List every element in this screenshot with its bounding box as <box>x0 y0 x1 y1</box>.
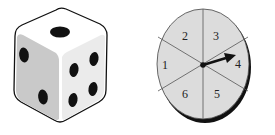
figure: 1 2 3 4 5 6 <box>0 0 275 135</box>
spinner-label-2: 2 <box>182 29 188 43</box>
spinner-label-6: 6 <box>182 87 188 101</box>
die-pip <box>50 27 70 38</box>
spinner-label-3: 3 <box>213 29 219 43</box>
spinner: 1 2 3 4 5 6 <box>157 9 251 123</box>
spinner-label-5: 5 <box>214 87 220 101</box>
die <box>14 8 107 122</box>
spinner-label-4: 4 <box>235 57 241 71</box>
spinner-label-1: 1 <box>162 58 168 72</box>
